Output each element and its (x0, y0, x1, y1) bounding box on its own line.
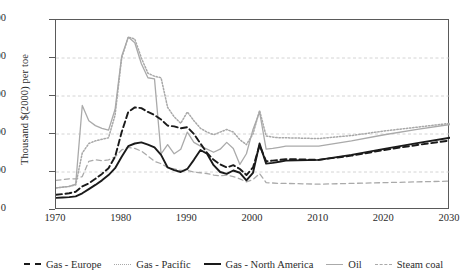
chart-legend: Gas - EuropeGas - PacificGas - North Ame… (0, 252, 467, 276)
legend-label: Oil (348, 259, 361, 270)
y-axis-title: Thousand $(2000) per toe (19, 10, 30, 210)
x-tick-label: 2020 (353, 212, 413, 223)
y-tick-label: 400 (0, 51, 6, 62)
series-canvas (56, 20, 450, 210)
legend-item[interactable]: Steam coal (375, 259, 443, 270)
legend-label: Gas - North America (226, 259, 314, 270)
legend-label: Steam coal (397, 259, 443, 270)
x-tick-label: 2030 (419, 212, 467, 223)
y-tick-label: 300 (0, 89, 6, 100)
legend-item[interactable]: Gas - Europe (24, 259, 101, 270)
x-tick-label: 1980 (91, 212, 151, 223)
y-tick-label: 200 (0, 127, 6, 138)
series-line (56, 107, 450, 194)
solid-black-line-icon (204, 263, 221, 265)
dotted-gray-line-icon (114, 264, 131, 265)
legend-label: Gas - Europe (46, 259, 101, 270)
chart-figure: Thousand $(2000) per toe 010020030040050… (0, 0, 467, 280)
legend-item[interactable]: Gas - North America (204, 259, 314, 270)
y-tick-label: 0 (0, 203, 6, 214)
y-tick-label: 500 (0, 13, 6, 24)
x-tick-label: 1990 (156, 212, 216, 223)
y-tick-label: 100 (0, 165, 6, 176)
dashed-gray-line-icon (375, 264, 392, 265)
legend-item[interactable]: Oil (326, 259, 361, 270)
x-tick-label: 2010 (288, 212, 348, 223)
solid-gray-line-icon (326, 264, 343, 265)
legend-label: Gas - Pacific (136, 259, 190, 270)
x-tick-label: 2000 (222, 212, 282, 223)
x-tick-label: 1970 (25, 212, 85, 223)
dashed-black-line-icon (24, 263, 41, 265)
plot-area (55, 19, 449, 209)
legend-item[interactable]: Gas - Pacific (114, 259, 190, 270)
y-tick-mark (49, 209, 55, 210)
